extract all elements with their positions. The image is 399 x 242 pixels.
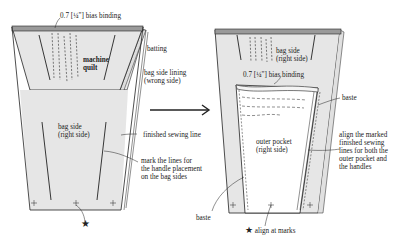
machine-quilt-label: machine quilt [83,56,109,72]
baste-bottom-label: baste [196,214,211,222]
star-icon: ★ [245,225,253,235]
right-arrow-icon [150,105,209,115]
left-bag-side-label: bag side (right side) [58,123,90,139]
right-bag-side-label: bag side (right side) [276,47,308,63]
align-at-marks-label: ★ align at marks [245,226,296,235]
baste-top-label: baste [342,94,357,102]
diagram-drawing [0,0,399,242]
finished-sewing-line-label: finished sewing line [143,131,201,139]
left-bias-binding-label: 0.7 [¼"] bias binding [60,12,121,20]
align-lines-label: align the marked finished sewing lines f… [339,131,388,171]
outer-pocket-label: outer pocket (right side) [256,138,292,154]
mark-lines-label: mark the lines for the handle placement … [141,157,202,181]
left-star-icon: ★ [81,220,90,228]
left-bag-panel [12,18,146,90]
lining-label: bag side lining (wrong side) [144,69,186,85]
batting-label: batting [147,45,167,53]
right-bias-binding-label: 0.7 [¼"] bias binding [243,71,304,79]
